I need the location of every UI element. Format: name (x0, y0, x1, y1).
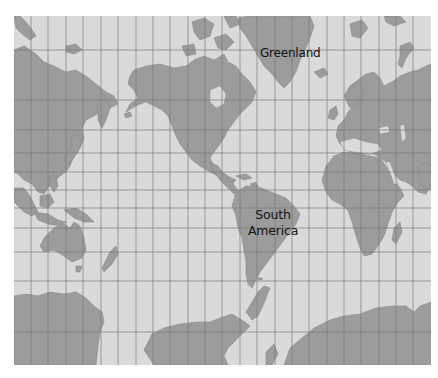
land-arctic-islands-east (384, 16, 406, 26)
land-british-isles (328, 106, 338, 120)
land-antarctic-island (266, 344, 278, 365)
label-greenland: Greenland (260, 46, 318, 61)
label-south-america-line1: South (248, 207, 298, 223)
land-madagascar (392, 222, 402, 244)
land-antarctica-west (14, 292, 104, 365)
land-antarctica-east (284, 302, 431, 365)
land-falklands (258, 278, 262, 280)
land-new-siberian-islands (66, 44, 82, 54)
land-new-guinea (64, 208, 94, 222)
land-iceland (314, 68, 328, 78)
land-aleutians (124, 112, 132, 118)
land-arctic-islands-west (14, 16, 36, 40)
label-south-america: South America (248, 207, 298, 239)
land-antarctica-central (144, 314, 250, 365)
land-novaya-zemlya (398, 42, 414, 68)
landmasses (14, 16, 431, 365)
map-canvas (14, 16, 431, 365)
land-indonesia (34, 212, 66, 226)
land-antarctic-peninsula (246, 286, 270, 320)
land-central-america (210, 162, 240, 194)
land-borneo (40, 194, 54, 208)
label-south-america-line2: America (248, 223, 298, 239)
land-caribbean (236, 174, 258, 186)
land-new-zealand (102, 246, 118, 272)
label-greenland-text: Greenland (260, 46, 320, 60)
land-north-america (126, 54, 256, 184)
land-tasmania (76, 266, 82, 272)
world-map[interactable]: Greenland South America (14, 16, 431, 365)
land-svalbard (350, 20, 368, 38)
